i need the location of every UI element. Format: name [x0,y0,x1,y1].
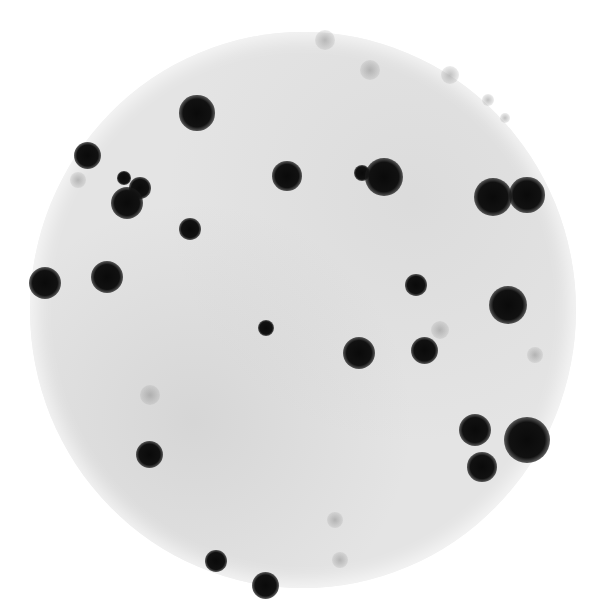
dark-spot [252,572,279,599]
dark-spot [136,441,163,468]
dark-spot [272,161,302,191]
faint-speck [315,30,335,50]
faint-speck [360,60,380,80]
faint-speck [431,321,449,339]
dark-spot [179,95,214,130]
dark-spot [258,320,274,336]
dark-spot [29,267,61,299]
faint-speck [70,172,86,188]
dark-spot [474,178,512,216]
dark-spot [117,171,131,185]
dark-spot [179,218,201,240]
dark-spot [74,142,101,169]
dark-spot [411,337,438,364]
faint-speck [140,385,160,405]
faint-speck [327,512,343,528]
faint-speck [332,552,348,568]
dark-spot [205,550,227,572]
dark-spot [459,414,491,446]
faint-speck [527,347,543,363]
dark-spot [365,158,403,196]
faint-speck [441,66,459,84]
faint-speck [482,94,494,106]
dark-spot [91,261,123,293]
dark-spot [467,452,497,482]
dark-spot [509,177,544,212]
dark-spot [405,274,427,296]
faint-speck [500,113,510,123]
dark-spot [504,417,550,463]
dark-spot [343,337,375,369]
dark-spot [111,187,143,219]
dark-spot [489,286,527,324]
spot-layer [0,0,601,615]
